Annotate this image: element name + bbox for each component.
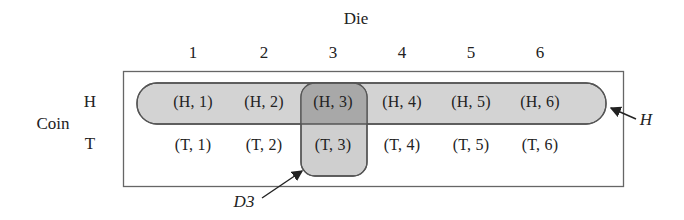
column-header-3: 3	[318, 43, 348, 63]
coin-axis-label: Coin	[28, 114, 78, 134]
event-h-label: H	[636, 110, 656, 130]
cell-h-3: (H, 3)	[298, 92, 368, 112]
column-header-6: 6	[525, 43, 555, 63]
cell-h-4: (H, 4)	[367, 92, 437, 112]
column-header-5: 5	[456, 43, 486, 63]
cell-t-5: (T, 5)	[436, 135, 506, 155]
event-d3-label: D3	[226, 192, 262, 212]
die-axis-title: Die	[326, 9, 386, 29]
cell-h-6: (H, 6)	[505, 92, 575, 112]
cell-t-6: (T, 6)	[505, 135, 575, 155]
cell-t-1: (T, 1)	[158, 135, 228, 155]
cell-t-2: (T, 2)	[229, 135, 299, 155]
cell-t-3: (T, 3)	[298, 135, 368, 155]
row-header-t: T	[80, 134, 100, 154]
cell-t-4: (T, 4)	[367, 135, 437, 155]
cell-h-2: (H, 2)	[229, 92, 299, 112]
cell-h-5: (H, 5)	[436, 92, 506, 112]
column-header-1: 1	[178, 43, 208, 63]
row-header-h: H	[80, 92, 100, 112]
cell-h-1: (H, 1)	[158, 92, 228, 112]
column-header-4: 4	[387, 43, 417, 63]
column-header-2: 2	[249, 43, 279, 63]
